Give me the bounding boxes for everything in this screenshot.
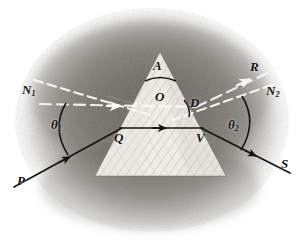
label-angle-theta1-letter: θ bbox=[51, 117, 58, 132]
label-deviation-d: D bbox=[190, 96, 199, 109]
label-normal-n1: N1 bbox=[22, 83, 35, 96]
label-angle-theta2-subscript: 2 bbox=[235, 124, 239, 133]
label-angle-theta2-letter: θ bbox=[228, 117, 235, 132]
label-normal-n2-subscript: 2 bbox=[275, 90, 279, 99]
label-angle-theta2: θ2 bbox=[228, 118, 239, 131]
label-normal-n1-subscript: 1 bbox=[31, 89, 35, 98]
label-normal-n2-letter: N bbox=[266, 83, 275, 98]
label-ray-extension-r: R bbox=[250, 60, 259, 73]
label-incident-ray-p: P bbox=[17, 174, 25, 187]
label-normal-n1-letter: N bbox=[22, 82, 31, 97]
figure-canvas bbox=[0, 0, 303, 249]
label-angle-theta1: θ1 bbox=[51, 118, 62, 131]
label-apex-a: A bbox=[153, 59, 162, 72]
label-normal-n2: N2 bbox=[266, 84, 279, 97]
label-interior-point-o: O bbox=[155, 90, 164, 103]
prism-refraction-figure: A O D Q V P S R N1 N2 θ1 θ2 bbox=[0, 0, 303, 249]
label-emergent-ray-s: S bbox=[281, 157, 288, 170]
label-entry-point-q: Q bbox=[114, 131, 123, 144]
label-exit-point-v: V bbox=[196, 131, 205, 144]
label-angle-theta1-subscript: 1 bbox=[58, 124, 62, 133]
